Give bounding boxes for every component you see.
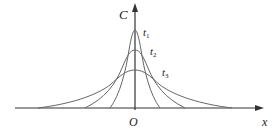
diffusion-diagram: C x O t1 t2 t3: [0, 0, 278, 132]
curve-label-t3: t3: [162, 66, 169, 80]
diagram-canvas: C x O t1 t2 t3: [0, 0, 278, 132]
origin-label: O: [129, 115, 138, 129]
y-axis-arrow-icon: [132, 3, 138, 12]
y-axis-label: C: [119, 7, 128, 22]
curve-label-t2: t2: [150, 45, 157, 59]
x-axis-arrow-icon: [255, 105, 264, 111]
curve-label-t1: t1: [143, 26, 150, 40]
x-axis-label: x: [261, 115, 268, 129]
